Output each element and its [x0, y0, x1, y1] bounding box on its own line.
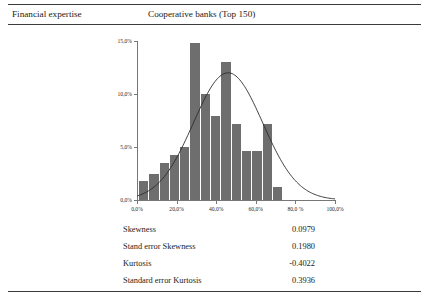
statistic-value: 0.0979	[263, 221, 315, 238]
statistic-label: Stand error Skewness	[123, 238, 196, 255]
statistics-row: Standard error Kurtosis0.3936	[123, 272, 338, 289]
x-axis-tick	[295, 200, 296, 204]
x-axis-label: 60,0%	[249, 206, 263, 213]
x-axis-label: 40,0%	[209, 206, 223, 213]
x-axis-label: 0,0%	[131, 206, 143, 213]
x-axis-line	[137, 200, 335, 201]
x-axis-tick	[335, 200, 336, 204]
y-axis-label: 15,0%	[118, 38, 132, 44]
statistics-table: Skewness0.0979Stand error Skewness0.1980…	[123, 221, 338, 289]
statistic-value: -0.4022	[263, 255, 315, 272]
statistic-label: Standard error Kurtosis	[123, 272, 202, 289]
histogram-bar	[242, 151, 252, 200]
header-divider	[8, 24, 421, 25]
histogram-bar	[211, 116, 221, 200]
plot-area: 0,0%5,0%10,0%15,0% 0,0%20,0%40,0%60,0%80…	[137, 41, 343, 200]
figure-page: Financial expertise Cooperative banks (T…	[0, 0, 429, 299]
histogram-bar	[149, 174, 159, 201]
statistic-label: Kurtosis	[123, 255, 151, 272]
y-axis-tick	[134, 94, 138, 95]
histogram-bar	[273, 187, 283, 200]
x-axis-tick	[137, 200, 138, 204]
y-axis-tick	[134, 147, 138, 148]
y-axis-label: 0,0%	[120, 197, 132, 203]
histogram-bar	[252, 151, 262, 200]
x-axis-tick	[256, 200, 257, 204]
y-axis-label: 5,0%	[120, 144, 132, 150]
histogram-bar	[170, 155, 180, 200]
histogram-bar	[201, 94, 211, 200]
statistics-row: Stand error Skewness0.1980	[123, 238, 338, 255]
histogram-bar	[180, 147, 190, 200]
histogram-bar	[139, 181, 149, 200]
x-axis-label: 20,0%	[169, 206, 183, 213]
y-axis-line	[137, 41, 138, 200]
x-axis-label: 100,0%	[326, 206, 343, 213]
statistic-label: Skewness	[123, 221, 156, 238]
bottom-divider	[8, 291, 421, 292]
statistic-value: 0.3936	[263, 272, 315, 289]
top-divider	[8, 4, 421, 5]
histogram-bar	[263, 124, 273, 200]
histogram-chart: 0,0%5,0%10,0%15,0% 0,0%20,0%40,0%60,0%80…	[118, 34, 363, 214]
statistics-row: Kurtosis-0.4022	[123, 255, 338, 272]
y-axis-label: 10,0%	[118, 91, 132, 97]
header-center-title: Cooperative banks (Top 150)	[148, 8, 255, 20]
histogram-bar	[160, 163, 170, 200]
header-left-title: Financial expertise	[12, 8, 82, 20]
statistic-value: 0.1980	[263, 238, 315, 255]
histogram-bar	[190, 43, 200, 200]
histogram-bar	[221, 62, 231, 200]
x-axis-label: 80,0 %	[287, 206, 303, 213]
x-axis-tick	[216, 200, 217, 204]
statistics-row: Skewness0.0979	[123, 221, 338, 238]
y-axis-tick	[134, 41, 138, 42]
x-axis-tick	[177, 200, 178, 204]
histogram-bar	[232, 124, 242, 200]
